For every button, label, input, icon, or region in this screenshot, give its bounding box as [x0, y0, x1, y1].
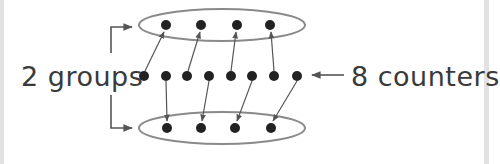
counter-dot [269, 71, 279, 81]
connector-arrow-icon [166, 81, 167, 121]
counter-dot [232, 20, 242, 30]
counter-dot [196, 123, 206, 133]
middle-counters-row [139, 71, 302, 81]
top-connections [145, 32, 274, 71]
bottom-group-counters [162, 123, 276, 133]
counter-dot [230, 123, 240, 133]
counter-dot [161, 20, 171, 30]
connector-arrow-icon [188, 32, 200, 71]
connector-arrow-icon [231, 32, 236, 71]
bottom-connections [166, 81, 297, 121]
bracket-arrow-bottom-icon [111, 95, 132, 128]
counter-dot [196, 20, 206, 30]
counter-dot [226, 71, 236, 81]
counter-dot [247, 71, 257, 81]
counter-dot [204, 71, 214, 81]
counter-dot [162, 123, 172, 133]
counter-dot [182, 71, 192, 81]
counters-label: 8 counters [351, 63, 500, 90]
counter-dot [161, 71, 171, 81]
connector-arrow-icon [273, 81, 297, 121]
connector-arrow-icon [237, 81, 252, 121]
counter-dot [292, 71, 302, 81]
top-group-counters [161, 20, 275, 30]
bracket-arrow-top-icon [111, 27, 132, 53]
connector-arrow-icon [202, 81, 209, 121]
counter-dot [266, 123, 276, 133]
groups-label: 2 groups [21, 63, 143, 90]
counter-dot [265, 20, 275, 30]
connector-arrow-icon [145, 32, 164, 71]
